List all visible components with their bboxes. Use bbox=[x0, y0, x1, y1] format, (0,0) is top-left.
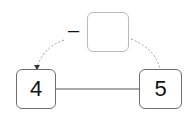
dotted-arrow-left bbox=[37, 40, 64, 68]
dotted-arc-right bbox=[131, 39, 160, 68]
right-number-box: 5 bbox=[139, 69, 182, 109]
left-number-box: 4 bbox=[16, 69, 56, 109]
answer-box[interactable] bbox=[87, 12, 129, 52]
minus-operator: – bbox=[68, 20, 79, 40]
